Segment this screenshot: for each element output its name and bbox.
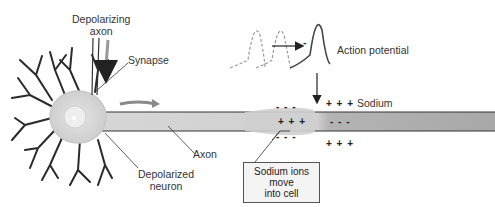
label-line: Depolarized	[138, 168, 194, 180]
callout-sodium-ions: Sodium ions move into cell	[243, 162, 320, 203]
label-synapse: Synapse	[128, 54, 169, 66]
label-depolarizing-axon: Depolarizing axon	[72, 13, 130, 37]
charge-inside-left: + + +	[278, 116, 306, 127]
label-sodium: Sodium	[357, 97, 393, 109]
charge-outside-bottom-right: + + +	[326, 138, 354, 149]
charge-outside-top-left: - - -	[276, 101, 297, 112]
callout-line: move	[244, 177, 319, 188]
charge-outside-top-right: + + +	[326, 98, 354, 109]
charge-outside-bottom-left: - - -	[276, 131, 297, 142]
label-line: neuron	[138, 180, 194, 192]
charge-inside-right: - - -	[330, 116, 351, 127]
label-axon: Axon	[193, 148, 217, 160]
label-line: axon	[72, 25, 130, 37]
label-depolarized-neuron: Depolarized neuron	[138, 168, 194, 192]
label-action-potential: Action potential	[337, 44, 409, 56]
label-ap-minus: -	[303, 36, 307, 48]
neuron-action-potential-diagram: Depolarizing axon Synapse Axon Depolariz…	[0, 0, 495, 207]
callout-line: into cell	[244, 188, 319, 199]
flow-arrow	[120, 102, 156, 104]
callout-line: Sodium ions	[244, 166, 319, 177]
label-line: Depolarizing	[72, 13, 130, 25]
